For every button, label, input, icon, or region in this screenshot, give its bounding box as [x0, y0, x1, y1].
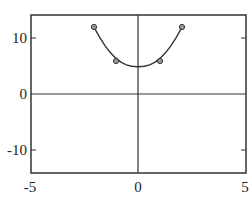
chart: 10 0 -10 -5 0 5: [0, 0, 252, 201]
y-tick-label: -10: [7, 142, 27, 158]
x-tick-label: 0: [134, 179, 142, 195]
x-tick-label: -5: [24, 179, 37, 195]
data-marker: [91, 24, 96, 29]
data-marker: [179, 24, 184, 29]
y-tick-label: 10: [12, 30, 27, 46]
x-tick-label: 5: [241, 179, 249, 195]
data-marker: [157, 58, 162, 63]
y-tick-label: 0: [20, 86, 28, 102]
data-marker: [113, 58, 118, 63]
